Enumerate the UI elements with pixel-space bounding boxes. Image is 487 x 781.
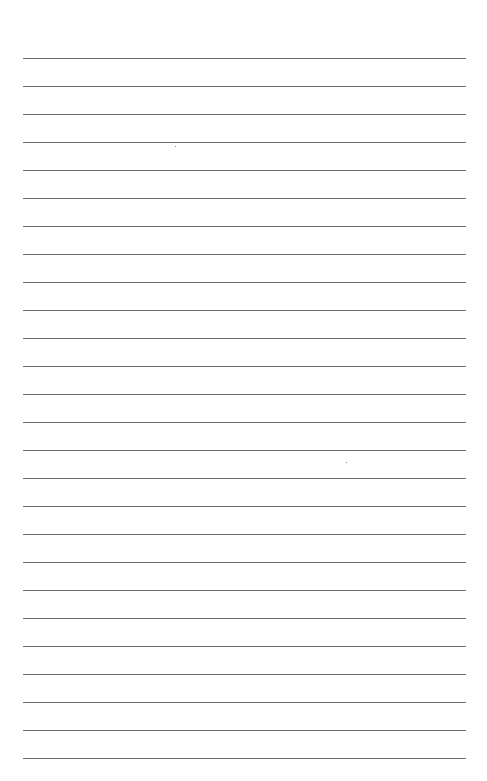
ruled-line — [23, 114, 466, 115]
ruled-line — [23, 730, 466, 731]
ruled-line — [23, 226, 466, 227]
ruled-line — [23, 618, 466, 619]
ruled-line — [23, 366, 466, 367]
paper-speck — [175, 146, 176, 147]
ruled-line — [23, 58, 466, 59]
ruled-line — [23, 702, 466, 703]
ruled-line — [23, 198, 466, 199]
ruled-line — [23, 254, 466, 255]
ruled-line — [23, 758, 466, 759]
ruled-line — [23, 562, 466, 563]
ruled-line — [23, 310, 466, 311]
lined-paper-page — [0, 0, 487, 781]
ruled-line — [23, 674, 466, 675]
ruled-line — [23, 646, 466, 647]
paper-speck — [346, 462, 347, 463]
ruled-line — [23, 86, 466, 87]
ruled-line — [23, 506, 466, 507]
ruled-line — [23, 478, 466, 479]
ruled-line — [23, 170, 466, 171]
ruled-line — [23, 422, 466, 423]
ruled-line — [23, 450, 466, 451]
ruled-line — [23, 590, 466, 591]
ruled-line — [23, 282, 466, 283]
ruled-line — [23, 338, 466, 339]
ruled-line — [23, 142, 466, 143]
ruled-line — [23, 534, 466, 535]
ruled-line — [23, 394, 466, 395]
